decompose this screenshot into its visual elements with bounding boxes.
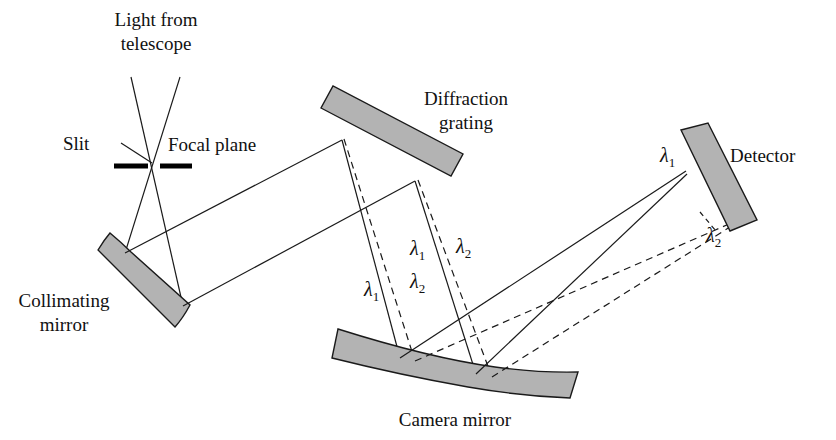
lambda-symbol: λ	[705, 224, 715, 246]
lambda-symbol: λ	[659, 144, 669, 166]
label-lambda1-grating-left: λ1	[363, 278, 379, 304]
label-diffraction-grating-line2: grating	[439, 112, 493, 133]
diagram-canvas: Light from telescope Slit Focal plane Co…	[0, 0, 836, 440]
label-lambda1-detector: λ1	[659, 144, 675, 170]
label-diffraction-grating-line1: Diffraction	[424, 88, 509, 109]
label-light-from-telescope-line2: telescope	[121, 33, 192, 54]
lambda-symbol: λ	[363, 278, 373, 300]
ray-collimated-lower	[183, 181, 415, 306]
label-collimating-mirror-line1: Collimating	[19, 290, 110, 311]
label-light-from-telescope-line1: Light from	[115, 9, 198, 30]
ray-lambda2-left-edge	[344, 139, 415, 361]
spectrograph-diagram: Light from telescope Slit Focal plane Co…	[0, 0, 836, 440]
label-camera-mirror: Camera mirror	[399, 409, 512, 430]
lambda-symbol: λ	[455, 235, 465, 257]
label-collimating-mirror-line2: mirror	[40, 314, 89, 335]
label-focal-plane: Focal plane	[168, 134, 256, 155]
lambda-subscript: 1	[419, 248, 426, 263]
lambda-symbol: λ	[409, 270, 419, 292]
camera-mirror	[332, 329, 578, 398]
label-slit: Slit	[63, 133, 90, 154]
lambda-subscript: 1	[373, 289, 380, 304]
label-detector: Detector	[730, 145, 796, 166]
label-lambda2-detector: λ2	[705, 224, 721, 250]
ray-lambda2-focus-right	[492, 227, 730, 377]
lambda-subscript: 2	[465, 246, 472, 261]
label-lambda2-grating-left: λ2	[409, 270, 425, 296]
label-lambda2-grating-right: λ2	[455, 235, 471, 261]
lambda-symbol: λ	[409, 237, 419, 259]
slit-pointer-line	[121, 143, 152, 163]
ray-lambda1-left-edge	[342, 140, 400, 358]
detector	[681, 123, 757, 231]
lambda-subscript: 1	[669, 155, 676, 170]
ray-group-lambda1-camera-to-detector	[400, 171, 687, 374]
lambda-subscript: 2	[715, 235, 722, 250]
collimating-mirror	[98, 233, 190, 327]
lambda-subscript: 2	[419, 281, 426, 296]
ray-lambda1-right-edge	[415, 181, 476, 374]
label-lambda1-grating-right: λ1	[409, 237, 425, 263]
ray-lambda1-focus-left	[400, 171, 686, 358]
ray-lambda2-right-edge	[418, 180, 492, 377]
